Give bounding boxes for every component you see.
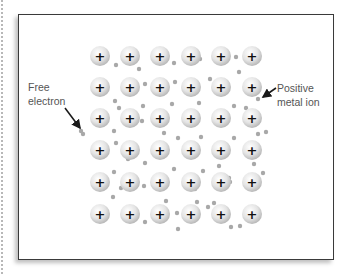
plus-icon: +: [95, 49, 106, 64]
positive-metal-ion: +: [242, 77, 262, 97]
plus-icon: +: [247, 80, 258, 95]
plus-icon: +: [216, 207, 227, 222]
positive-metal-ion: +: [120, 77, 140, 97]
positive-metal-ion: +: [120, 172, 140, 192]
positive-metal-ion: +: [242, 172, 262, 192]
positive-metal-ion: +: [211, 46, 231, 66]
positive-metal-ion: +: [90, 77, 110, 97]
plus-icon: +: [155, 143, 166, 158]
free-electron-dot: [234, 55, 238, 59]
positive-ion-label-line2: metal ion: [277, 95, 320, 109]
free-electron-dot: [143, 161, 147, 165]
positive-metal-ion: +: [242, 140, 262, 160]
free-electron-label-line2: electron: [28, 94, 65, 108]
positive-metal-ion: +: [181, 204, 201, 224]
plus-icon: +: [247, 175, 258, 190]
positive-metal-ion: +: [150, 140, 170, 160]
free-electron-label-line1: Free: [28, 80, 65, 94]
free-electron-dot: [140, 119, 144, 123]
plus-icon: +: [155, 49, 166, 64]
positive-metal-ion: +: [181, 46, 201, 66]
plus-icon: +: [247, 207, 258, 222]
free-electron-dot: [176, 136, 180, 140]
plus-icon: +: [125, 207, 136, 222]
free-electron-dot: [232, 104, 236, 108]
free-electron-label: Free electron: [28, 80, 65, 108]
positive-metal-ion: +: [150, 46, 170, 66]
plus-icon: +: [155, 80, 166, 95]
free-electron-dot: [264, 130, 268, 134]
free-electron-dot: [195, 200, 199, 204]
free-electron-dot: [143, 82, 147, 86]
positive-metal-ion: +: [150, 204, 170, 224]
positive-metal-ion: +: [211, 204, 231, 224]
plus-icon: +: [247, 111, 258, 126]
positive-metal-ion: +: [211, 140, 231, 160]
free-electron-dot: [217, 164, 221, 168]
free-electron-dot: [141, 104, 145, 108]
free-electron-dot: [117, 106, 121, 110]
free-electron-dot: [113, 99, 117, 103]
plus-icon: +: [125, 111, 136, 126]
plus-icon: +: [216, 111, 227, 126]
plus-icon: +: [125, 80, 136, 95]
plus-icon: +: [95, 111, 106, 126]
free-electron-dot: [256, 132, 260, 136]
plus-icon: +: [95, 80, 106, 95]
plus-icon: +: [186, 175, 197, 190]
free-electron-dot: [237, 70, 241, 74]
positive-metal-ion: +: [211, 77, 231, 97]
positive-metal-ion: +: [120, 108, 140, 128]
free-electron-dot: [164, 199, 168, 203]
free-electron-dot: [142, 184, 146, 188]
positive-metal-ion: +: [150, 172, 170, 192]
positive-ion-arrow-icon: [263, 88, 276, 97]
plus-icon: +: [186, 111, 197, 126]
free-electron-dot: [252, 162, 256, 166]
plus-icon: +: [125, 175, 136, 190]
plus-icon: +: [155, 111, 166, 126]
positive-metal-ion: +: [150, 77, 170, 97]
free-electron-dot: [175, 211, 179, 215]
free-electron-dot: [111, 195, 115, 199]
positive-metal-ion: +: [120, 46, 140, 66]
free-electron-dot: [229, 225, 233, 229]
metallic-lattice-diagram: ++++++++++++++++++++++++++++++++++++: [0, 0, 346, 274]
positive-metal-ion: +: [181, 108, 201, 128]
free-electron-dot: [172, 61, 176, 65]
free-electron-dot: [232, 136, 236, 140]
free-electron-dot: [212, 201, 216, 205]
plus-icon: +: [95, 207, 106, 222]
positive-metal-ion: +: [181, 140, 201, 160]
free-electron-dot: [256, 97, 260, 101]
plus-icon: +: [95, 143, 106, 158]
positive-metal-ion: +: [90, 46, 110, 66]
free-electron-dot: [173, 80, 177, 84]
positive-metal-ion: +: [90, 172, 110, 192]
plus-icon: +: [247, 143, 258, 158]
free-electron-dot: [114, 141, 118, 145]
positive-metal-ion: +: [181, 172, 201, 192]
free-electron-dot: [112, 129, 116, 133]
free-electron-dot: [112, 170, 116, 174]
plus-icon: +: [247, 49, 258, 64]
free-electron-dot: [206, 205, 210, 209]
positive-ion-label-line1: Positive: [277, 81, 320, 95]
free-electron-dot: [261, 171, 265, 175]
plus-icon: +: [216, 143, 227, 158]
plus-icon: +: [186, 143, 197, 158]
plus-icon: +: [95, 175, 106, 190]
positive-metal-ion: +: [120, 204, 140, 224]
positive-metal-ion: +: [90, 204, 110, 224]
free-electron-dot: [176, 227, 180, 231]
plus-icon: +: [216, 175, 227, 190]
free-electron-dot: [201, 169, 205, 173]
plus-icon: +: [186, 80, 197, 95]
plus-icon: +: [125, 143, 136, 158]
positive-metal-ion: +: [242, 46, 262, 66]
free-electron-dot: [199, 135, 203, 139]
free-electron-dot: [172, 167, 176, 171]
positive-metal-ion: +: [181, 77, 201, 97]
free-electron-dot: [81, 132, 85, 136]
positive-metal-ion: +: [211, 108, 231, 128]
